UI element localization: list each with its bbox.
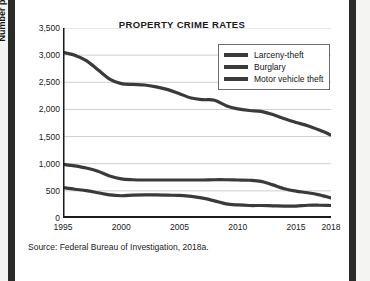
x-axis-tick-labels: 199520002005201020152018 (63, 222, 331, 236)
legend-label-larceny-theft: Larceny-theft (254, 50, 304, 60)
legend-item: Larceny-theft (224, 49, 323, 61)
x-axis-tick-label: 2015 (287, 222, 306, 232)
scan-bar-right (349, 0, 356, 281)
page-edge-right (356, 0, 370, 281)
source-note: Source: Federal Bureau of Investigation,… (28, 242, 209, 252)
y-axis-tick-label: 2,000 (39, 104, 60, 114)
x-axis-tick-label: 2018 (322, 222, 341, 232)
x-axis-tick-label: 2000 (112, 222, 131, 232)
y-axis-tick-label: 500 (46, 186, 60, 196)
figure-card: PROPERTY CRIME RATES Number per 100,000 … (15, 0, 349, 281)
legend-swatch-motor-vehicle-theft (224, 77, 248, 81)
y-axis-tick-label: 2,500 (39, 77, 60, 87)
y-axis-tick-labels: 3,5003,0002,5002,0001,5001,0005000 (15, 28, 60, 218)
x-axis-tick-label: 1995 (54, 222, 73, 232)
y-axis-tick-label: 3,000 (39, 50, 60, 60)
legend-item: Motor vehicle theft (224, 73, 323, 85)
legend-swatch-larceny-theft (224, 53, 248, 57)
scanned-page-frame: PROPERTY CRIME RATES Number per 100,000 … (0, 0, 370, 281)
legend-label-burglary: Burglary (254, 62, 286, 72)
y-axis-tick-label: 1,000 (39, 159, 60, 169)
y-axis-tick-label: 1,500 (39, 132, 60, 142)
x-axis-tick-label: 2010 (228, 222, 247, 232)
y-axis-title: Number per 100,000 people (0, 0, 7, 58)
legend-item: Burglary (224, 61, 323, 73)
chart-legend: Larceny-theft Burglary Motor vehicle the… (218, 44, 330, 90)
legend-swatch-burglary (224, 65, 248, 69)
scan-bar-left (8, 0, 15, 281)
x-axis-tick-label: 2005 (170, 222, 189, 232)
legend-label-motor-vehicle-theft: Motor vehicle theft (254, 74, 323, 84)
y-axis-tick-label: 3,500 (39, 23, 60, 33)
